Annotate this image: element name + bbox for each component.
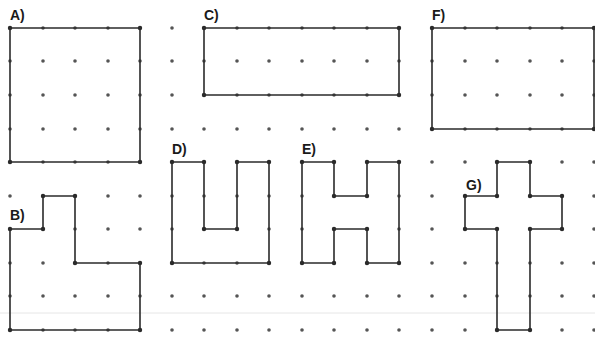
grid-dot (463, 328, 467, 332)
grid-dot (73, 59, 77, 63)
vertex-dot (528, 227, 532, 231)
grid-dot (560, 93, 564, 97)
grid-dot (397, 294, 401, 298)
grid-dot (528, 93, 532, 97)
grid-dot (267, 328, 271, 332)
vertex-dot (528, 328, 532, 332)
vertex-dot (8, 26, 12, 30)
grid-dot (138, 194, 142, 198)
vertex-dot (8, 160, 12, 164)
grid-dot (495, 93, 499, 97)
grid-dot (41, 261, 45, 265)
vertex-dot (365, 194, 369, 198)
grid-dot (463, 59, 467, 63)
vertex-dot (365, 227, 369, 231)
grid-dot (463, 294, 467, 298)
grid-dot (235, 294, 239, 298)
label-shape-a: A) (10, 8, 25, 22)
label-shape-b: B) (10, 208, 25, 222)
grid-dot (106, 127, 110, 131)
grid-dot (235, 127, 239, 131)
grid-dot (560, 294, 564, 298)
vertex-dot (41, 227, 45, 231)
grid-dot (397, 328, 401, 332)
vertex-dot (138, 160, 142, 164)
grid-dot (170, 127, 174, 131)
shape-f-outline (432, 28, 594, 129)
vertex-dot (267, 160, 271, 164)
vertex-dot (300, 160, 304, 164)
grid-dot (397, 127, 401, 131)
grid-dot (41, 127, 45, 131)
grid-dot (106, 93, 110, 97)
grid-dot (332, 127, 336, 131)
vertex-dot (300, 261, 304, 265)
vertex-dot (528, 160, 532, 164)
grid-dot (202, 328, 206, 332)
grid-dot (170, 26, 174, 30)
vertex-dot (73, 194, 77, 198)
grid-dot (430, 328, 434, 332)
grid-dot (300, 127, 304, 131)
grid-dot (528, 59, 532, 63)
grid-dot (73, 93, 77, 97)
grid-dot (430, 261, 434, 265)
grid-dot (365, 294, 369, 298)
vertex-dot (463, 194, 467, 198)
grid-dot (463, 93, 467, 97)
grid-dot (170, 328, 174, 332)
vertex-dot (202, 227, 206, 231)
vertex-dot (397, 26, 401, 30)
vertex-dot (430, 26, 434, 30)
label-shape-e: E) (302, 142, 316, 156)
grid-dot (170, 294, 174, 298)
vertex-dot (560, 227, 564, 231)
vertex-dot (495, 194, 499, 198)
vertex-dot (8, 328, 12, 332)
grid-dot (430, 294, 434, 298)
vertex-dot (41, 194, 45, 198)
grid-dot (430, 227, 434, 231)
grid-dot (41, 294, 45, 298)
grid-dot (300, 59, 304, 63)
grid-dot (300, 328, 304, 332)
grid-dot (267, 59, 271, 63)
vertex-dot (495, 227, 499, 231)
vertex-dot (528, 194, 532, 198)
label-shape-c: C) (204, 8, 219, 22)
grid-dot (430, 194, 434, 198)
grid-dot (202, 294, 206, 298)
grid-dot (235, 59, 239, 63)
grid-dot (365, 59, 369, 63)
dot-grid-canvas (0, 0, 595, 337)
grid-dot (106, 227, 110, 231)
grid-dot (332, 59, 336, 63)
vertex-dot (430, 127, 434, 131)
grid-dot (365, 328, 369, 332)
vertex-dot (495, 328, 499, 332)
grid-dot (300, 294, 304, 298)
grid-dot (430, 160, 434, 164)
grid-dot (106, 294, 110, 298)
vertex-dot (202, 160, 206, 164)
shape-d-outline (172, 162, 269, 263)
grid-dot (267, 294, 271, 298)
grid-dot (8, 194, 12, 198)
grid-dot (332, 328, 336, 332)
vertex-dot (138, 26, 142, 30)
vertex-dot (495, 160, 499, 164)
vertex-dot (397, 160, 401, 164)
vertex-dot (397, 261, 401, 265)
vertex-dot (170, 261, 174, 265)
label-shape-d: D) (172, 142, 187, 156)
grid-dot (106, 194, 110, 198)
vertex-dot (332, 261, 336, 265)
vertex-dot (463, 227, 467, 231)
shape-e-outline (302, 162, 399, 263)
grid-dot (235, 328, 239, 332)
grid-dot (365, 127, 369, 131)
vertex-dot (397, 93, 401, 97)
grid-dot (495, 59, 499, 63)
grid-dot (41, 93, 45, 97)
vertex-dot (138, 261, 142, 265)
